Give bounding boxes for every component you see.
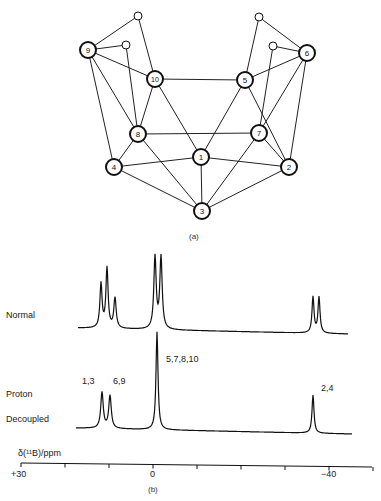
hydrogen-atom xyxy=(122,41,130,49)
bond-line xyxy=(245,17,259,80)
bond-line xyxy=(88,50,138,134)
bond-line xyxy=(259,46,273,133)
bond-line xyxy=(201,157,289,167)
hydrogen-atom xyxy=(269,42,277,50)
axis-title: δ(¹¹B)/ppm xyxy=(18,448,61,458)
bond-line xyxy=(138,133,259,134)
boron-atom-10: 10 xyxy=(147,71,163,87)
hydrogen-atom xyxy=(134,12,142,20)
normal-spectrum-trace xyxy=(78,254,348,334)
bond-line xyxy=(289,53,307,167)
bond-line xyxy=(245,53,307,80)
bond-line xyxy=(155,79,201,157)
svg-text:7: 7 xyxy=(257,129,262,138)
bond-line xyxy=(202,133,259,211)
boron-atom-8: 8 xyxy=(130,126,146,142)
svg-text:6: 6 xyxy=(305,49,310,58)
svg-text:2: 2 xyxy=(287,163,292,172)
boron-atom-2: 2 xyxy=(281,159,297,175)
tick-label-plus30: +30 xyxy=(11,469,26,479)
svg-text:8: 8 xyxy=(136,130,141,139)
peak-label-6-9: 6,9 xyxy=(113,376,126,386)
tick-label-minus40: −40 xyxy=(321,469,336,479)
boron-atom-3: 3 xyxy=(194,203,210,219)
trace-label-proton: Proton xyxy=(6,389,33,399)
bond-line xyxy=(88,50,114,167)
svg-text:3: 3 xyxy=(200,207,205,216)
caption-a: (a) xyxy=(189,232,199,241)
peak-label-2-4: 2,4 xyxy=(321,383,334,393)
hydrogen-atom xyxy=(255,13,263,21)
boron-atom-9: 9 xyxy=(80,42,96,58)
peak-label-1-3: 1,3 xyxy=(82,376,95,386)
bond-line xyxy=(202,167,289,211)
bond-line xyxy=(138,16,155,79)
svg-text:9: 9 xyxy=(86,46,91,55)
boron-atom-5: 5 xyxy=(237,72,253,88)
trace-label-normal: Normal xyxy=(6,310,35,320)
svg-text:1: 1 xyxy=(199,153,204,162)
bond-line xyxy=(114,167,202,211)
bond-line xyxy=(155,79,245,80)
svg-text:10: 10 xyxy=(151,76,159,83)
caption-b: (b) xyxy=(148,485,158,494)
bond-line xyxy=(126,45,138,134)
boron-atom-1: 1 xyxy=(193,149,209,165)
bond-line xyxy=(138,134,202,211)
bond-line xyxy=(88,50,155,79)
svg-text:5: 5 xyxy=(243,76,248,85)
boron-atom-7: 7 xyxy=(251,125,267,141)
svg-text:4: 4 xyxy=(112,163,117,172)
boron-atom-6: 6 xyxy=(299,45,315,61)
bond-line xyxy=(114,157,201,167)
tick-label-0: 0 xyxy=(150,469,155,479)
cluster-structure-diagram: 12345678910 xyxy=(0,0,381,501)
peak-label-5-7-8-10: 5,7,8,10 xyxy=(166,354,199,364)
trace-label-decoupled: Decoupled xyxy=(6,414,49,424)
boron-atom-4: 4 xyxy=(106,159,122,175)
bond-line xyxy=(201,80,245,157)
bond-line xyxy=(88,16,138,50)
